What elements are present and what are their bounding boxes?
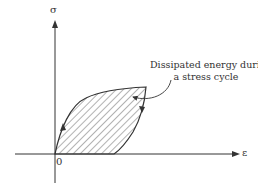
- annotation-line-2: a stress cycle: [150, 71, 258, 83]
- hysteresis-diagram: [0, 0, 258, 192]
- y-axis-label: σ: [50, 4, 57, 15]
- x-axis-label: ε: [242, 147, 247, 158]
- y-axis-arrow-icon: [52, 20, 58, 28]
- hysteresis-loop: [55, 87, 146, 154]
- origin-label: 0: [56, 156, 62, 167]
- annotation-line-1: Dissipated energy during: [150, 59, 258, 71]
- annotation-text: Dissipated energy during a stress cycle: [150, 59, 258, 83]
- x-axis-arrow-icon: [232, 151, 240, 157]
